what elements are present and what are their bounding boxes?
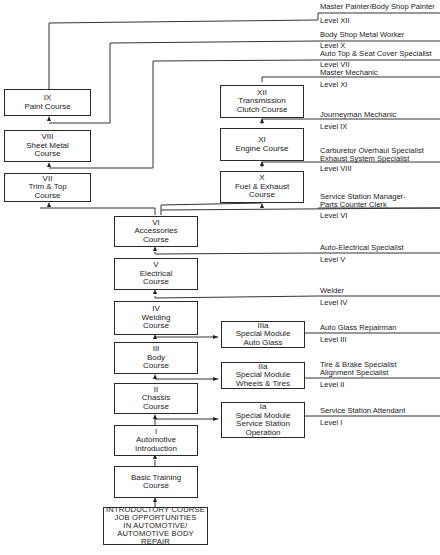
career-title: Auto Glass Repairman xyxy=(320,324,396,333)
career-title: Auto Top & Seat Cover Specialist xyxy=(320,50,432,59)
career-title: Master Mechanic xyxy=(320,69,378,78)
module-ia-service-station: Ia Special Module Service Station Operat… xyxy=(221,402,305,438)
career-level: Level VI xyxy=(320,212,347,221)
course-vii-trim-top: VII Trim & Top Course xyxy=(4,173,91,202)
module-iia-wheels-tires: IIa Special Module Wheels & Tires xyxy=(221,362,305,389)
career-title: Journeyman Mechanic xyxy=(320,111,396,120)
career-title: Master Painter/Body Shop Painter xyxy=(320,3,435,12)
career-level: Level V xyxy=(320,256,345,265)
career-level: Level IX xyxy=(320,123,347,132)
career-title-2: Parts Counter Clerk xyxy=(320,201,387,210)
career-title-2: Alignment Specialist xyxy=(320,369,388,378)
career-title: Welder xyxy=(320,287,344,296)
career-title: Body Shop Metal Worker xyxy=(320,31,404,40)
course-vi-accessories: VI Accessories Course xyxy=(114,216,198,247)
career-level: Level XII xyxy=(320,17,350,26)
career-level: Level II xyxy=(320,381,344,390)
course-iv-welding: IV Welding Course xyxy=(114,301,198,335)
connector-lines xyxy=(0,0,440,555)
basic-training-course: Basic Training Course xyxy=(114,466,198,498)
career-level: Level XI xyxy=(320,81,347,90)
introductory-course: INTRODUCTORY COURSE JOB OPPORTUNITIES IN… xyxy=(103,507,208,545)
course-v-electrical: V Electrical Course xyxy=(114,258,198,290)
course-ii-chassis: II Chassis Course xyxy=(114,383,198,414)
career-level: Level III xyxy=(320,336,347,345)
course-xi-engine: XI Engine Course xyxy=(220,128,304,161)
career-title: Service Station Attendant xyxy=(320,407,405,416)
course-viii-sheet-metal: VIII Sheet Metal Course xyxy=(4,130,91,162)
course-x-fuel-exhaust: X Fuel & Exhaust Course xyxy=(220,171,304,203)
course-ix-paint: IX Paint Course xyxy=(4,89,91,116)
career-title-2: Exhaust System Specialist xyxy=(320,155,409,164)
course-i-automotive-intro: I Automotive Introduction xyxy=(114,425,198,456)
career-level: Level IV xyxy=(320,299,347,308)
career-title: Auto-Electrical Specialist xyxy=(320,244,404,253)
career-level: Level I xyxy=(320,419,342,428)
module-iiia-auto-glass: IIIa Special Module Auto Glass xyxy=(221,321,305,348)
career-level: Level VIII xyxy=(320,165,352,174)
course-xii-transmission: XII Transmission Clutch Course xyxy=(220,85,304,118)
course-iii-body: III Body Course xyxy=(114,342,198,374)
